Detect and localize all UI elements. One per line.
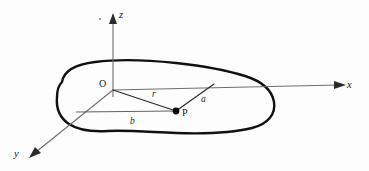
y-axis-label: y bbox=[14, 149, 19, 160]
diagram-canvas bbox=[0, 0, 369, 171]
arrow-up-icon bbox=[109, 13, 117, 24]
stray-speck bbox=[99, 18, 101, 20]
x-axis-label: x bbox=[347, 80, 352, 91]
irregular-body-outline bbox=[57, 60, 274, 133]
z-axis-label: z bbox=[119, 10, 123, 21]
physics-diagram: z x y O P r a b bbox=[0, 0, 369, 171]
point-p-dot bbox=[173, 108, 180, 115]
arrow-down-left-icon bbox=[29, 147, 41, 158]
origin-label: O bbox=[99, 79, 106, 89]
segment-a-label: a bbox=[201, 95, 206, 105]
point-p-label: P bbox=[182, 108, 188, 118]
segment-r-label: r bbox=[152, 90, 156, 100]
segment-b-label: b bbox=[130, 117, 135, 127]
arrow-right-icon bbox=[334, 81, 346, 89]
